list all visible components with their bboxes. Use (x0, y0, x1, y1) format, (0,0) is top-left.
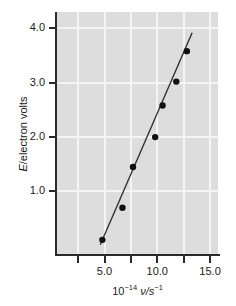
y-tick-1 (49, 136, 56, 138)
photoelectric-effect-chart: 1.02.03.04.0 5.010.015.0 E/electron volt… (0, 0, 236, 306)
data-point-2 (130, 164, 136, 170)
y-axis-title: E/electron volts (17, 69, 29, 199)
y-tick-label-3: 4.0 (5, 22, 45, 33)
x-axis-title-variable-exponent: −1 (154, 283, 163, 292)
x-tick-label-5: 15.0 (188, 266, 232, 277)
x-tick-1 (104, 256, 106, 263)
x-tick-label-3: 10.0 (135, 266, 179, 277)
x-tick-3 (156, 256, 158, 263)
x-tick-2 (130, 256, 132, 263)
y-axis-title-variable: E (17, 164, 29, 171)
x-axis-line (55, 254, 220, 256)
x-tick-5 (209, 256, 211, 263)
x-tick-4 (183, 256, 185, 263)
x-axis-title: 10−14 ν/s−1 (57, 285, 218, 297)
x-tick-label-1: 5.0 (83, 266, 127, 277)
data-layer (57, 12, 218, 254)
data-point-4 (159, 102, 165, 108)
data-point-3 (152, 134, 158, 140)
x-axis-title-variable: ν/s (140, 285, 154, 297)
y-axis-title-rest: /electron volts (17, 96, 29, 164)
y-tick-3 (49, 27, 56, 29)
x-axis-title-prefix: 10 (112, 285, 124, 297)
data-point-1 (119, 205, 125, 211)
y-tick-0 (49, 190, 56, 192)
data-point-5 (173, 78, 179, 84)
y-tick-2 (49, 82, 56, 84)
plot-area (57, 12, 218, 254)
x-axis-title-prefix-exponent: −14 (124, 283, 137, 292)
data-point-0 (99, 237, 105, 243)
data-point-6 (184, 48, 190, 54)
x-tick-0 (77, 256, 79, 263)
y-axis-line (55, 12, 57, 256)
best-fit-line (100, 33, 192, 245)
